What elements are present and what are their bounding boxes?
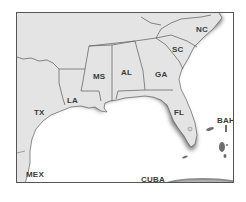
label-north-carolina: NC	[196, 26, 208, 34]
lake-okeechobee	[188, 127, 192, 131]
label-georgia: GA	[155, 71, 167, 79]
label-cuba: CUBA	[141, 176, 165, 183]
label-florida: FL	[174, 109, 184, 117]
map-frame: NC SC GA AL MS LA TX FL BAH MEX CUBA	[16, 12, 234, 183]
label-mexico: MEX	[26, 171, 44, 179]
label-mississippi: MS	[93, 73, 105, 81]
label-bahamas: BAH	[217, 117, 234, 125]
label-louisiana: LA	[67, 97, 78, 105]
us-landmass	[17, 13, 222, 183]
map-svg	[17, 13, 234, 183]
label-texas: TX	[34, 109, 45, 117]
label-south-carolina: SC	[172, 46, 184, 54]
label-alabama: AL	[121, 69, 132, 77]
